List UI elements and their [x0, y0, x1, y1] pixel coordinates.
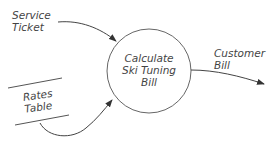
flow-arrow-service-ticket	[58, 22, 116, 41]
customer-bill-line1: Customer	[214, 47, 265, 59]
service-ticket-label: Service Ticket	[12, 9, 51, 33]
data-store-bottom-line	[15, 115, 69, 125]
process-line3: Bill	[114, 76, 184, 88]
data-store-top-line	[8, 78, 62, 88]
process-line1: Calculate	[114, 52, 184, 64]
flow-arrow-customer-bill	[191, 70, 264, 84]
process-label: Calculate Ski Tuning Bill	[114, 52, 184, 88]
rates-table-label: Rates Table	[22, 87, 55, 115]
service-ticket-line2: Ticket	[12, 21, 51, 33]
customer-bill-label: Customer Bill	[214, 47, 265, 71]
service-ticket-line1: Service	[12, 9, 51, 21]
customer-bill-line2: Bill	[214, 59, 265, 71]
process-line2: Ski Tuning	[114, 64, 184, 76]
